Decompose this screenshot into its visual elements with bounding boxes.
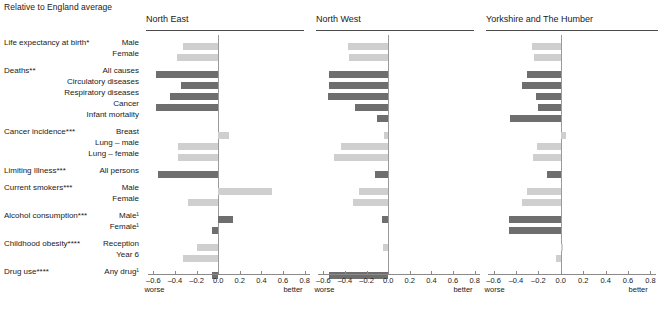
- panel-title: Yorkshire and The Humber: [486, 14, 593, 24]
- x-axis-tick: [261, 271, 262, 274]
- row-label-column: Life expectancy at birth*MaleFemaleDeath…: [0, 30, 142, 280]
- group-title: Alcohol consumption***: [4, 211, 87, 220]
- bar: [183, 43, 219, 50]
- bar: [556, 255, 560, 262]
- bar: [561, 244, 563, 251]
- bar: [538, 104, 560, 111]
- x-axis-line: [488, 274, 656, 275]
- x-axis-tick: [240, 271, 241, 274]
- axis-end-label-better: better: [283, 285, 302, 294]
- bar: [384, 132, 388, 139]
- bar: [334, 154, 388, 161]
- x-axis-tick: [305, 271, 306, 274]
- plot-area: –0.6–0.4–0.20.00.20.40.60.8worsebetter: [314, 35, 486, 267]
- bar: [353, 199, 389, 206]
- row-label: Female: [112, 194, 139, 203]
- bar: [527, 188, 561, 195]
- bar: [218, 188, 272, 195]
- bar: [181, 82, 218, 89]
- x-axis-tick: [494, 271, 495, 274]
- row-label: Any drug¹: [104, 267, 139, 276]
- zero-reference-line: [218, 35, 219, 274]
- bar: [341, 143, 389, 150]
- bar: [156, 104, 219, 111]
- bar: [178, 154, 218, 161]
- x-axis-tick: [197, 271, 198, 274]
- axis-end-label-worse: worse: [314, 285, 334, 294]
- bar: [561, 132, 567, 139]
- bar: [218, 216, 233, 223]
- row-label: Respiratory diseases: [64, 88, 139, 97]
- panel-title-rule: [316, 30, 474, 31]
- bar: [188, 199, 218, 206]
- zero-reference-line: [561, 35, 562, 274]
- bar: [534, 54, 561, 61]
- x-axis-tick: [175, 271, 176, 274]
- panel-title: North West: [316, 14, 361, 24]
- row-label: Year 6: [116, 250, 139, 259]
- bar: [537, 143, 561, 150]
- bar: [509, 216, 561, 223]
- bar: [522, 199, 561, 206]
- bar: [382, 216, 388, 223]
- group-title: Deaths**: [4, 66, 36, 75]
- x-axis-tick-label: 0.8: [637, 276, 663, 285]
- x-axis-tick: [323, 271, 324, 274]
- axis-end-label-worse: worse: [485, 285, 505, 294]
- x-axis-tick: [475, 271, 476, 274]
- panel-title-rule: [146, 30, 304, 31]
- x-axis-tick: [431, 271, 432, 274]
- row-label: Breast: [116, 127, 139, 136]
- bar: [197, 244, 219, 251]
- bar: [547, 171, 560, 178]
- group-title: Limiting Illness***: [4, 166, 66, 175]
- bar: [212, 227, 218, 234]
- x-axis-tick: [218, 271, 219, 274]
- chart-caption: Relative to England average: [4, 2, 112, 12]
- row-label: Male: [122, 183, 139, 192]
- x-axis-tick: [538, 271, 539, 274]
- panel-yorkshire-and-the-humber: Yorkshire and The Humber–0.6–0.4–0.20.00…: [484, 14, 672, 314]
- row-label: All persons: [99, 166, 139, 175]
- x-axis-tick: [650, 271, 651, 274]
- x-axis-tick: [367, 271, 368, 274]
- panel-north-west: North West–0.6–0.4–0.20.00.20.40.60.8wor…: [314, 14, 486, 314]
- x-axis-tick: [345, 271, 346, 274]
- bar: [329, 71, 388, 78]
- bar: [170, 93, 219, 100]
- x-axis-tick: [410, 271, 411, 274]
- bar: [355, 104, 388, 111]
- x-axis-tick: [283, 271, 284, 274]
- bar: [536, 93, 561, 100]
- bar: [183, 255, 219, 262]
- x-axis-tick: [606, 271, 607, 274]
- x-axis-tick: [453, 271, 454, 274]
- row-label: Female¹: [110, 222, 139, 231]
- bar: [527, 71, 561, 78]
- row-label: All causes: [103, 66, 139, 75]
- bar: [177, 54, 218, 61]
- bar: [383, 244, 388, 251]
- bar: [510, 115, 560, 122]
- row-label: Cancer: [113, 99, 139, 108]
- bar: [178, 143, 218, 150]
- zero-reference-line: [388, 35, 389, 274]
- bar: [509, 227, 561, 234]
- row-label: Infant mortality: [87, 110, 139, 119]
- group-title: Current smokers***: [4, 183, 72, 192]
- x-axis-tick: [628, 271, 629, 274]
- bar: [218, 132, 229, 139]
- panel-north-east: North East–0.6–0.4–0.20.00.20.40.60.8wor…: [144, 14, 316, 314]
- panel-title: North East: [146, 14, 189, 24]
- group-title: Life expectancy at birth*: [4, 38, 89, 47]
- group-title: Drug use****: [4, 267, 49, 276]
- chart-root: Relative to England average Life expecta…: [0, 0, 672, 324]
- x-axis-line: [148, 274, 310, 275]
- group-title: Childhood obesity****: [4, 239, 80, 248]
- plot-area: –0.6–0.4–0.20.00.20.40.60.8worsebetter: [484, 35, 672, 267]
- bar: [349, 54, 388, 61]
- bar: [522, 82, 561, 89]
- x-axis-tick: [153, 271, 154, 274]
- axis-end-label-worse: worse: [144, 285, 164, 294]
- bar: [533, 154, 561, 161]
